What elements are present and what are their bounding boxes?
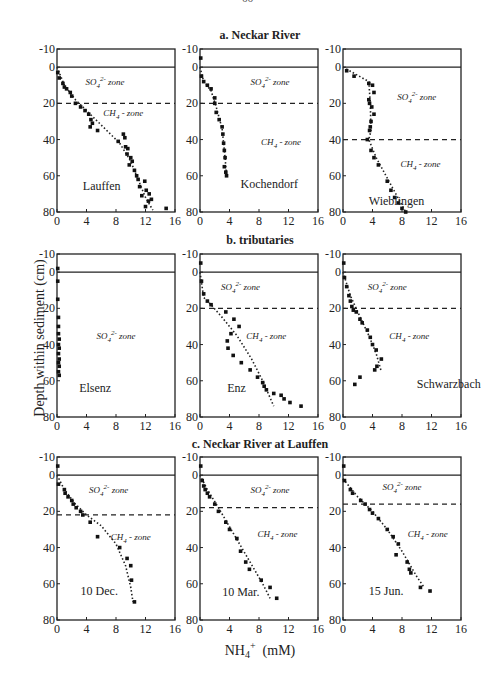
x-tick-label: 16 [169,214,181,228]
y-tick-label: 0 [192,265,198,279]
data-point [391,535,395,539]
data-point [368,102,372,106]
data-point [385,528,389,532]
data-point [56,279,60,283]
y-tick-label: -10 [325,247,341,261]
data-point [56,297,60,301]
x-tick-label: 4 [227,622,233,636]
data-point [405,560,409,564]
x-tick-label: 16 [169,419,181,433]
data-point [123,136,127,140]
data-point [203,488,207,492]
x-tick-label: 12 [140,419,152,433]
data-point [223,149,227,153]
data-point [248,567,252,571]
data-point [224,520,228,524]
data-point [118,546,122,550]
data-point [369,149,373,153]
zone-label: CH4 - zone [246,331,286,344]
site-label: Schwarzbach [417,377,481,391]
y-tick-label: 0 [192,60,198,74]
data-point [229,332,233,336]
panel-15-jun: -100204060800481216SO42- zoneCH4 - zone1… [325,450,467,636]
data-point [199,56,203,60]
data-point [371,511,375,515]
data-point [57,374,61,378]
x-tick-label: 12 [283,622,295,636]
data-point [70,499,74,503]
data-point [349,299,353,303]
data-point [217,118,221,122]
data-point [419,586,423,590]
x-tick-label: 4 [227,214,233,228]
data-point [79,510,83,514]
data-point [66,495,70,499]
data-point [206,83,210,87]
data-point [235,537,239,541]
data-point [129,156,133,160]
data-point [57,361,61,365]
data-point [368,129,372,133]
y-tick-label: -10 [182,42,198,56]
x-tick-label: 8 [256,214,262,228]
zone-label: SO42- zone [382,480,421,495]
data-point [352,74,356,78]
zone-label: CH4 - zone [261,137,301,150]
data-point [68,91,72,95]
data-point [96,129,100,133]
data-point [351,491,355,495]
zone-label: CH4 - zone [111,532,151,545]
data-point [358,317,362,321]
data-point [57,370,61,374]
data-point [57,352,61,356]
y-tick-label: 0 [335,468,341,482]
y-tick-label: 60 [186,169,198,183]
zone-label: SO42- zone [251,75,290,90]
panel-kochendorf: -100204060800481216SO42- zoneCH4 - zoneK… [182,42,324,228]
zone-label: CH4 - zone [103,108,143,121]
y-tick-label: -10 [39,450,55,464]
data-point [428,589,432,593]
y-tick-label: -10 [182,450,198,464]
data-point [367,82,371,86]
data-point [130,578,134,582]
data-point [369,120,373,124]
site-label: Wieblingen [369,194,425,208]
x-tick-label: 16 [312,214,324,228]
data-point [370,105,374,109]
data-point [368,336,372,340]
data-point [226,346,230,350]
data-point [116,140,120,144]
data-point [256,375,260,379]
data-point [143,179,147,183]
x-tick-label: 8 [113,214,119,228]
data-point [389,188,393,192]
x-tick-label: 4 [84,214,90,228]
site-label: Elsenz [79,381,111,395]
data-point [223,165,227,169]
y-tick-label: 60 [329,577,341,591]
y-tick-label: 0 [335,60,341,74]
data-point [279,393,283,397]
data-point [372,91,376,95]
data-point [374,348,378,352]
data-point [57,357,61,361]
data-point [57,343,61,347]
x-tick-label: 8 [113,419,119,433]
data-point [65,87,69,91]
y-tick-label: -10 [325,42,341,56]
data-point [282,397,286,401]
data-point [209,87,213,91]
data-point [368,508,372,512]
data-point [349,488,353,492]
figure-panels: -100204060800481216SO42- zoneCH4 - zoneL… [0,0,495,688]
data-point [130,159,134,163]
panel-frame [343,49,461,212]
data-point [96,535,100,539]
data-point [125,557,129,561]
data-point [213,502,217,506]
data-point [138,185,142,189]
panel-schwarzbach: -100204060800481216SO42- zoneCH4 - zoneS… [325,247,481,433]
data-point [265,388,269,392]
y-tick-label: 0 [49,468,55,482]
